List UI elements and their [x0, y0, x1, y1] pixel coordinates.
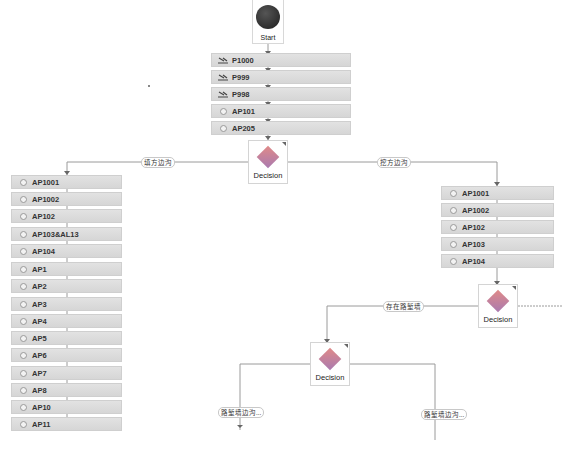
ring-icon — [447, 258, 459, 265]
expand-corner-icon — [344, 344, 348, 348]
ring-icon — [17, 248, 29, 255]
activity-label: AP104 — [462, 257, 485, 266]
left-activity[interactable]: AP104 — [11, 244, 122, 258]
right-activity[interactable]: AP104 — [441, 254, 554, 268]
diamond-icon — [319, 348, 342, 371]
activity-label: AP11 — [32, 420, 50, 429]
activity-label: AP3 — [32, 300, 47, 309]
left-activity[interactable]: AP7 — [11, 366, 122, 380]
activity-label: AP8 — [32, 386, 47, 395]
ring-icon — [17, 335, 29, 342]
ring-icon — [447, 241, 459, 248]
activity-label: AP5 — [32, 334, 47, 343]
decision-label: Decision — [479, 315, 517, 324]
activity-label: AP2 — [32, 282, 47, 291]
tool-icon — [217, 57, 229, 64]
right-activity[interactable]: AP1001 — [441, 186, 554, 200]
activity-label: AP1001 — [32, 178, 59, 187]
branch-label-left-2[interactable]: 路堑墙边沟... — [218, 407, 264, 418]
left-activity[interactable]: AP5 — [11, 331, 122, 345]
diamond-icon — [487, 290, 510, 313]
start-circle-icon — [256, 5, 280, 29]
left-activity[interactable]: AP1 — [11, 262, 122, 276]
ring-icon — [17, 179, 29, 186]
activity-label: AP1001 — [462, 189, 489, 198]
ring-icon — [447, 207, 459, 214]
ring-icon — [447, 224, 459, 231]
start-label: Start — [253, 34, 283, 41]
ring-icon — [17, 318, 29, 325]
ring-icon — [17, 266, 29, 273]
activity-label: AP1 — [32, 265, 47, 274]
branch-label-right-2[interactable]: 路堑墙边沟... — [421, 409, 467, 420]
activity-label: AP7 — [32, 369, 47, 378]
ring-icon — [217, 125, 229, 132]
activity-label: AP103&AL13 — [32, 230, 79, 239]
activity-label: P999 — [232, 73, 250, 82]
left-activity[interactable]: AP2 — [11, 279, 122, 293]
ring-icon — [17, 196, 29, 203]
decision-node-1[interactable]: Decision — [248, 140, 288, 184]
ring-icon — [17, 370, 29, 377]
ring-icon — [447, 190, 459, 197]
diamond-icon — [257, 146, 280, 169]
left-activity[interactable]: AP3 — [11, 297, 122, 311]
ring-icon — [17, 387, 29, 394]
tool-icon — [217, 91, 229, 98]
activity-label: AP102 — [462, 223, 485, 232]
branch-label-right[interactable]: 挖方边沟 — [377, 157, 411, 168]
stray-dot — [148, 85, 150, 87]
activity-ap101[interactable]: AP101 — [211, 104, 351, 118]
ring-icon — [17, 404, 29, 411]
tool-icon — [217, 74, 229, 81]
activity-label: AP1002 — [32, 195, 59, 204]
left-activity[interactable]: AP10 — [11, 400, 122, 414]
activity-label: AP102 — [32, 212, 55, 221]
decision-label: Decision — [249, 171, 287, 180]
left-activity[interactable]: AP4 — [11, 314, 122, 328]
activity-label: AP101 — [232, 107, 255, 116]
left-activity[interactable]: AP8 — [11, 383, 122, 397]
ring-icon — [17, 283, 29, 290]
right-activity[interactable]: AP102 — [441, 220, 554, 234]
activity-label: AP103 — [462, 240, 485, 249]
decision-node-2[interactable]: Decision — [478, 284, 518, 328]
left-activity[interactable]: AP1001 — [11, 175, 122, 189]
left-activity[interactable]: AP102 — [11, 209, 122, 223]
activity-label: P998 — [232, 90, 250, 99]
ring-icon — [17, 301, 29, 308]
ring-icon — [17, 352, 29, 359]
activity-p999[interactable]: P999 — [211, 70, 351, 84]
branch-label-left[interactable]: 填方边沟 — [141, 157, 175, 168]
start-node[interactable]: Start — [252, 0, 284, 44]
left-activity[interactable]: AP6 — [11, 348, 122, 362]
activity-p1000[interactable]: P1000 — [211, 53, 351, 67]
activity-label: AP205 — [232, 124, 255, 133]
activity-label: AP1002 — [462, 206, 489, 215]
decision-label: Decision — [311, 373, 349, 382]
activity-label: AP10 — [32, 403, 51, 412]
activity-p998[interactable]: P998 — [211, 87, 351, 101]
right-activity[interactable]: AP1002 — [441, 203, 554, 217]
expand-corner-icon — [282, 142, 286, 146]
left-activity[interactable]: AP103&AL13 — [11, 227, 122, 241]
decision-node-3[interactable]: Decision — [310, 342, 350, 386]
expand-corner-icon — [512, 286, 516, 290]
ring-icon — [217, 108, 229, 115]
ring-icon — [17, 213, 29, 220]
activity-label: AP4 — [32, 317, 47, 326]
ring-icon — [17, 231, 29, 238]
activity-label: P1000 — [232, 56, 254, 65]
left-activity[interactable]: AP1002 — [11, 192, 122, 206]
workflow-canvas: Start P1000 P999 P998 AP101 AP205 Decisi… — [0, 0, 565, 463]
right-activity[interactable]: AP103 — [441, 237, 554, 251]
activity-label: AP6 — [32, 351, 47, 360]
activity-label: AP104 — [32, 247, 55, 256]
left-activity[interactable]: AP11 — [11, 417, 122, 431]
ring-icon — [17, 421, 29, 428]
activity-ap205[interactable]: AP205 — [211, 121, 351, 135]
branch-label-retaining-wall[interactable]: 存在路堑墙 — [383, 301, 424, 312]
